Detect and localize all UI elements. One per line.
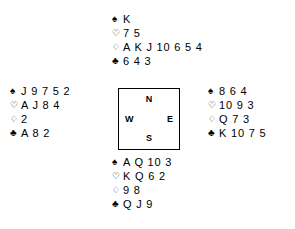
hand-north-diamonds: A K J 10 6 5 4 (123, 40, 203, 54)
heart-icon: ♡ (112, 169, 123, 183)
hand-south-clubs-row: ♣ Q J 9 (112, 197, 172, 211)
hand-north-clubs-row: ♣ 6 4 3 (112, 54, 203, 68)
hand-east-diamonds: Q 7 3 (219, 112, 250, 126)
hand-north-hearts: 7 5 (123, 26, 141, 40)
hand-west-spades: J 9 7 5 2 (21, 84, 70, 98)
heart-icon: ♡ (208, 98, 219, 112)
hand-west-hearts-row: ♡ A J 8 4 (10, 98, 70, 112)
hand-north-diamonds-row: ♢ A K J 10 6 5 4 (112, 40, 203, 54)
hand-east-diamonds-row: ♢ Q 7 3 (208, 112, 266, 126)
hand-west-clubs-row: ♣ A 8 2 (10, 126, 70, 140)
diamond-icon: ♢ (208, 112, 219, 126)
hand-west: ♠ J 9 7 5 2 ♡ A J 8 4 ♢ 2 ♣ A 8 2 (10, 84, 70, 140)
hand-east-spades: 8 6 4 (219, 84, 247, 98)
hand-east-hearts: 10 9 3 (219, 98, 254, 112)
compass-label-north: N (146, 95, 153, 104)
hand-north-spades-row: ♠ K (112, 12, 203, 26)
club-icon: ♣ (112, 54, 123, 68)
hand-west-clubs: A 8 2 (21, 126, 50, 140)
hand-east-clubs-row: ♣ K 10 7 5 (208, 126, 266, 140)
hand-north-clubs: 6 4 3 (123, 54, 151, 68)
hand-west-hearts: A J 8 4 (21, 98, 60, 112)
bridge-deal-diagram: ♠ K ♡ 7 5 ♢ A K J 10 6 5 4 ♣ 6 4 3 ♠ J 9… (0, 0, 295, 229)
heart-icon: ♡ (10, 98, 21, 112)
hand-south-hearts-row: ♡ K Q 6 2 (112, 169, 172, 183)
compass-label-west: W (125, 115, 134, 124)
hand-west-diamonds: 2 (21, 112, 28, 126)
compass-box: N W E S (118, 88, 180, 150)
hand-south-spades-row: ♠ A Q 10 3 (112, 155, 172, 169)
spade-icon: ♠ (112, 155, 123, 169)
club-icon: ♣ (208, 126, 219, 140)
diamond-icon: ♢ (112, 183, 123, 197)
compass-label-east: E (167, 115, 173, 124)
spade-icon: ♠ (10, 84, 21, 98)
hand-north: ♠ K ♡ 7 5 ♢ A K J 10 6 5 4 ♣ 6 4 3 (112, 12, 203, 68)
hand-north-hearts-row: ♡ 7 5 (112, 26, 203, 40)
hand-south-diamonds: 9 8 (123, 183, 141, 197)
hand-east-clubs: K 10 7 5 (219, 126, 266, 140)
hand-east-hearts-row: ♡ 10 9 3 (208, 98, 266, 112)
hand-south-spades: A Q 10 3 (123, 155, 172, 169)
hand-east: ♠ 8 6 4 ♡ 10 9 3 ♢ Q 7 3 ♣ K 10 7 5 (208, 84, 266, 140)
diamond-icon: ♢ (112, 40, 123, 54)
hand-north-spades: K (123, 12, 131, 26)
hand-south-clubs: Q J 9 (123, 197, 153, 211)
spade-icon: ♠ (112, 12, 123, 26)
hand-south-hearts: K Q 6 2 (123, 169, 166, 183)
compass-label-south: S (146, 134, 152, 143)
hand-south-diamonds-row: ♢ 9 8 (112, 183, 172, 197)
spade-icon: ♠ (208, 84, 219, 98)
heart-icon: ♡ (112, 26, 123, 40)
diamond-icon: ♢ (10, 112, 21, 126)
hand-south: ♠ A Q 10 3 ♡ K Q 6 2 ♢ 9 8 ♣ Q J 9 (112, 155, 172, 211)
hand-east-spades-row: ♠ 8 6 4 (208, 84, 266, 98)
club-icon: ♣ (112, 197, 123, 211)
club-icon: ♣ (10, 126, 21, 140)
hand-west-diamonds-row: ♢ 2 (10, 112, 70, 126)
hand-west-spades-row: ♠ J 9 7 5 2 (10, 84, 70, 98)
